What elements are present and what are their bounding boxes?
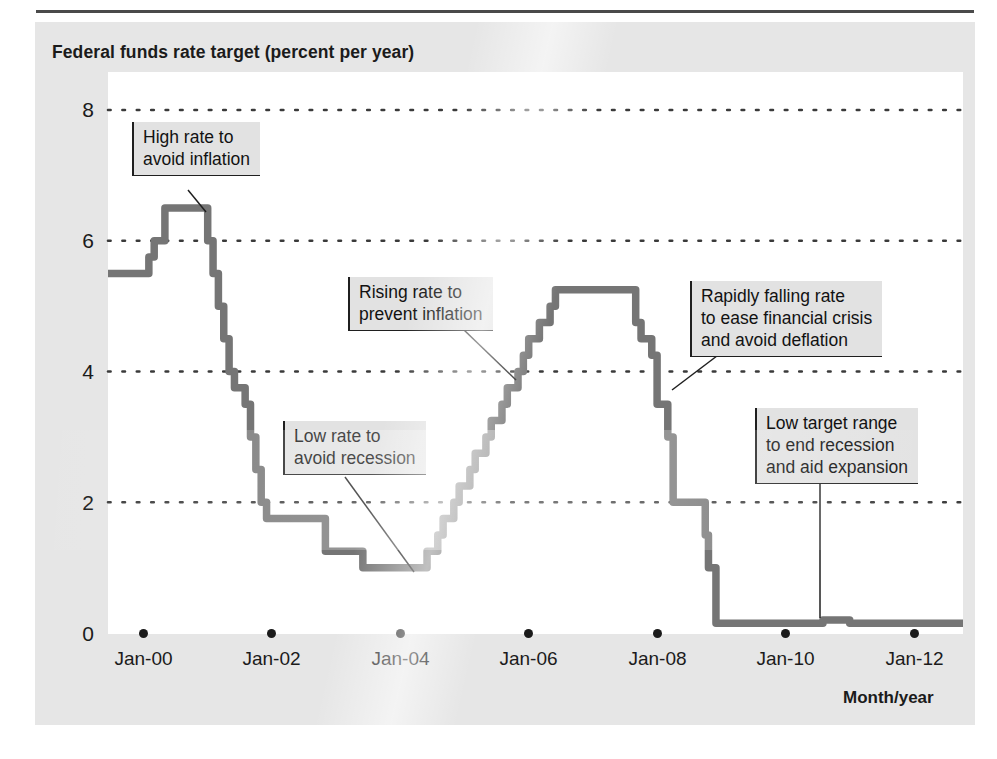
annotation-rising-rate: Rising rate to prevent inflation	[348, 277, 493, 331]
annotation-low-rate: Low rate to avoid recession	[283, 421, 426, 475]
x-axis-tick-jan-12: Jan-12	[862, 648, 967, 670]
x-axis-tick-jan-06: Jan-06	[476, 648, 581, 670]
x-axis-tick-jan-08: Jan-08	[605, 648, 710, 670]
x-axis-tick-dot-jan-00	[139, 629, 148, 638]
x-axis-tick-jan-02: Jan-02	[219, 648, 324, 670]
x-axis-tick-dot-jan-12	[910, 629, 919, 638]
y-axis-tick-8: 8	[68, 98, 94, 122]
y-axis-tick-6: 6	[68, 229, 94, 253]
x-axis-tick-jan-10: Jan-10	[733, 648, 838, 670]
x-axis-tick-dot-jan-02	[267, 629, 276, 638]
annotation-high-rate: High rate to avoid inflation	[132, 122, 260, 176]
y-axis-tick-4: 4	[68, 360, 94, 384]
annotation-falling-rate: Rapidly falling rate to ease financial c…	[690, 281, 882, 357]
x-axis-tick-jan-04: Jan-04	[348, 648, 453, 670]
figure-container: Federal funds rate target (percent per y…	[0, 0, 997, 759]
x-axis-title: Month/year	[843, 688, 934, 708]
y-axis-tick-0: 0	[68, 622, 94, 646]
y-axis-tick-2: 2	[68, 491, 94, 515]
top-divider-rule	[36, 10, 974, 13]
x-axis-tick-dot-jan-06	[524, 629, 533, 638]
x-axis-tick-dot-jan-10	[781, 629, 790, 638]
x-axis-tick-dot-jan-08	[653, 629, 662, 638]
x-axis-tick-jan-00: Jan-00	[91, 648, 196, 670]
x-axis-tick-dot-jan-04	[396, 629, 405, 638]
chart-title: Federal funds rate target (percent per y…	[52, 42, 414, 63]
annotation-low-target: Low target range to end recession and ai…	[755, 408, 918, 484]
